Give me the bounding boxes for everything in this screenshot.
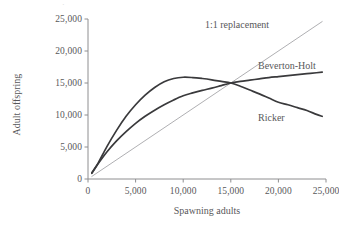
series-label-beverton-holt: Beverton-Holt (258, 60, 316, 71)
x-tick-label: 5,000 (125, 186, 147, 196)
x-tick-label: 20,000 (265, 186, 292, 196)
x-tick-label: 0 (86, 186, 91, 196)
y-axis-title: Adult offspring (11, 50, 22, 160)
x-tick-label: 10,000 (170, 186, 197, 196)
series-label-ricker: Ricker (258, 112, 285, 123)
x-axis-title: Spawning adults (88, 205, 326, 216)
y-tick-label: 15,000 (24, 78, 82, 88)
y-tick-label: 0 (24, 174, 82, 184)
y-tick-label: 25,000 (24, 14, 82, 24)
y-tick-label: 10,000 (24, 110, 82, 120)
x-tick-label: 25,000 (313, 186, 339, 196)
y-tick-label: 5,000 (24, 142, 82, 152)
series-label-replacement: 1:1 replacement (205, 19, 269, 30)
y-tick-label: 20,000 (24, 46, 82, 56)
series-curve-beverton-holt (92, 72, 322, 173)
series-curve-ricker (92, 77, 322, 173)
x-tick-label: 15,000 (217, 186, 244, 196)
series-curve-1-1-replacement (92, 22, 322, 177)
